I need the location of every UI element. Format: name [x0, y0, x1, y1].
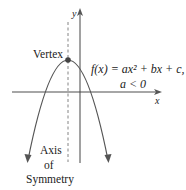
vertex-point — [65, 57, 71, 63]
axis-of-symmetry-label-line3: Symmetry — [26, 174, 74, 186]
equation-label: f(x) = ax² + bx + c, — [91, 63, 185, 75]
right-arrowhead-icon — [105, 154, 112, 163]
condition-label: a < 0 — [120, 78, 146, 90]
y-axis-label: y — [72, 9, 76, 19]
x-axis-label: x — [155, 96, 159, 106]
left-arrowhead-icon — [25, 154, 32, 163]
axis-of-symmetry-label-line2: of — [44, 160, 54, 172]
axis-of-symmetry-label-line1: Axis — [40, 145, 62, 157]
vertex-label: Vertex — [33, 49, 63, 61]
